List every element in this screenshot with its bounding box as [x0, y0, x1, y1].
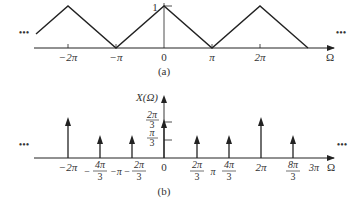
impulse-8pi3 — [290, 135, 296, 158]
svg-text:−: − — [124, 166, 130, 177]
peak-label: 1 — [152, 1, 158, 13]
svg-text:8π: 8π — [288, 159, 299, 170]
caption-a: (a) — [158, 65, 171, 78]
svg-text:−: − — [84, 166, 90, 177]
svg-text:3: 3 — [137, 171, 142, 182]
x-label-neg-2pi3: − 2π 3 — [124, 159, 146, 182]
x-label-2pi: 2π — [255, 161, 267, 173]
svg-text:2π: 2π — [134, 159, 145, 170]
triangle-waveform — [36, 6, 308, 48]
x-label-4pi3: 4π 3 — [222, 159, 236, 182]
tick-label-neg-2pi-a: −2π — [59, 51, 78, 63]
tick-label-pi-a: π — [209, 51, 215, 63]
x-label-neg-pi: −π — [110, 166, 123, 177]
impulse-neg-4pi3 — [97, 135, 103, 158]
impulse-4pi3 — [226, 135, 232, 158]
impulse-neg-2pi — [65, 117, 71, 158]
svg-text:3: 3 — [195, 171, 200, 182]
svg-text:3: 3 — [98, 171, 103, 182]
tick-label-2pi-a: 2π — [254, 51, 266, 63]
y-tick-label-pi3: π 3 — [147, 127, 158, 148]
x-label-2pi3: 2π 3 — [190, 159, 204, 182]
x-label-8pi3: 8π 3 — [286, 159, 300, 182]
panel-b: X(Ω) 2π 3 π 3 −2π − 4π 3 −π − 2π 3 0 — [19, 91, 348, 198]
svg-text:3: 3 — [227, 171, 232, 182]
svg-text:3: 3 — [150, 137, 155, 148]
x-label-pi: π — [210, 166, 216, 177]
x-label-zero: 0 — [161, 161, 167, 173]
svg-text:4π: 4π — [224, 159, 235, 170]
tick-label-zero-a: 0 — [161, 51, 167, 63]
y-axis-label: X(Ω) — [135, 91, 158, 104]
svg-text:4π: 4π — [95, 159, 106, 170]
ellipsis-right-a: ••• — [336, 27, 347, 38]
x-label-neg-4pi3: − 4π 3 — [84, 159, 107, 182]
impulse-neg-2pi3 — [129, 135, 135, 158]
ellipsis-left-a: ••• — [19, 27, 30, 38]
panel-a: 1 −2π −π 0 π 2π Ω ••• ••• (a) — [19, 1, 347, 78]
svg-text:3: 3 — [291, 171, 296, 182]
vertical-axis-arrow-b — [161, 95, 167, 103]
impulse-2pi — [258, 117, 264, 158]
tick-label-neg-pi-a: −π — [110, 51, 123, 63]
omega-label-b: Ω — [327, 161, 335, 173]
ellipsis-right-b: ••• — [337, 139, 348, 150]
x-label-3pi: 3π — [308, 162, 320, 173]
caption-b: (b) — [158, 185, 171, 198]
impulse-zero — [161, 119, 167, 158]
svg-text:2π: 2π — [192, 159, 203, 170]
omega-label-a: Ω — [326, 51, 334, 63]
x-label-neg-2pi: −2π — [59, 161, 78, 173]
impulse-2pi3 — [194, 135, 200, 158]
ellipsis-left-b: ••• — [19, 139, 30, 150]
